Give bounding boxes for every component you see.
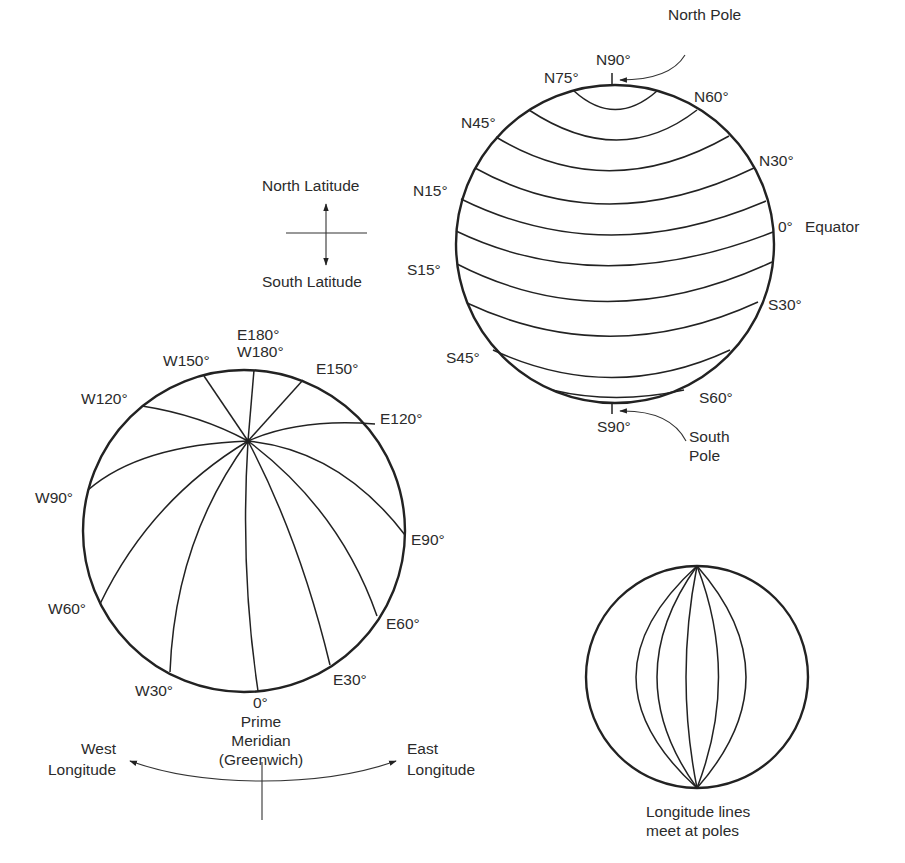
label-e90: E90° — [411, 531, 445, 549]
longitude-globe-outline — [83, 370, 405, 692]
label-s90: S90° — [597, 418, 631, 436]
caption-line-2: meet at poles — [646, 821, 750, 840]
label-n75: N75° — [544, 69, 579, 87]
meridian-globe — [586, 566, 808, 788]
parallel-n30 — [475, 168, 754, 204]
label-e150: E150° — [316, 360, 358, 378]
label-s45: S45° — [446, 349, 480, 367]
label-s30: S30° — [768, 296, 802, 314]
meridian-w30 — [170, 441, 248, 672]
north-latitude-label: North Latitude — [262, 177, 359, 195]
prime-meridian-line-2: Meridian — [206, 731, 316, 750]
label-s15: S15° — [407, 261, 441, 279]
meridian-line — [686, 566, 697, 788]
meridian-line — [697, 566, 746, 788]
meridian-globe-outline — [586, 566, 808, 788]
parallel-n60 — [529, 110, 697, 140]
label-n90: N90° — [596, 51, 631, 69]
longitude-globe — [83, 370, 405, 692]
meridian-w150 — [204, 376, 248, 441]
west-longitude-line-1: West — [30, 738, 116, 759]
meridian-w120 — [142, 406, 248, 441]
meridian-w60 — [100, 441, 248, 604]
south-pole-label-text: South Pole — [689, 427, 729, 465]
meridian-globe-caption: Longitude lines meet at poles — [646, 802, 750, 840]
label-w60: W60° — [48, 600, 86, 618]
meridian-e30 — [248, 441, 330, 665]
parallel-s30 — [467, 302, 758, 336]
prime-meridian-line-1: Prime — [206, 712, 316, 731]
label-n30: N30° — [759, 152, 794, 170]
longitude-direction-arc — [130, 761, 396, 820]
label-n15: N15° — [413, 182, 448, 200]
parallel-n75 — [574, 91, 657, 110]
east-longitude-line-1: East — [407, 738, 475, 759]
label-s60: S60° — [699, 389, 733, 407]
caption-line-1: Longitude lines — [646, 802, 750, 821]
latitude-globe — [456, 55, 774, 441]
prime-meridian-line-3: (Greenwich) — [206, 750, 316, 769]
meridian-e120 — [248, 423, 375, 441]
label-e30: E30° — [333, 671, 367, 689]
label-w90: W90° — [35, 489, 73, 507]
label-n45: N45° — [461, 114, 496, 132]
west-longitude-label: West Longitude — [30, 738, 116, 780]
globe-coordinates-diagram: North Pole N90° N75° N60° N45° N30° N15°… — [0, 0, 905, 863]
latitude-direction-cross — [286, 204, 367, 265]
east-longitude-line-2: Longitude — [407, 759, 475, 780]
meridian-180 — [248, 370, 254, 441]
parallel-s15 — [457, 262, 772, 302]
parallel-s45 — [493, 350, 730, 378]
north-pole-label: North Pole — [668, 6, 741, 24]
label-equator-degree: 0° — [778, 218, 793, 236]
label-e180: E180° — [237, 326, 279, 344]
label-equator: Equator — [805, 218, 859, 236]
diagram-graphics — [0, 0, 905, 863]
label-n60: N60° — [694, 88, 729, 106]
label-w150: W150° — [163, 352, 210, 370]
meridian-e60 — [248, 441, 377, 616]
label-w180: W180° — [237, 343, 284, 361]
meridian-line — [636, 566, 697, 788]
label-w120: W120° — [81, 390, 128, 408]
east-longitude-label: East Longitude — [407, 738, 475, 780]
meridian-w90 — [88, 441, 248, 490]
label-e120: E120° — [380, 410, 422, 428]
parallel-n45 — [496, 136, 729, 171]
west-longitude-line-2: Longitude — [30, 759, 116, 780]
prime-meridian-label: Prime Meridian (Greenwich) — [206, 712, 316, 769]
south-pole-label: South Pole — [689, 427, 729, 465]
meridian-prime — [246, 441, 258, 691]
parallel-equator — [456, 231, 773, 266]
label-zero: 0° — [253, 694, 268, 712]
south-latitude-label: South Latitude — [262, 273, 362, 291]
label-e60: E60° — [386, 615, 420, 633]
label-w30: W30° — [135, 682, 173, 700]
meridian-line — [697, 566, 719, 788]
